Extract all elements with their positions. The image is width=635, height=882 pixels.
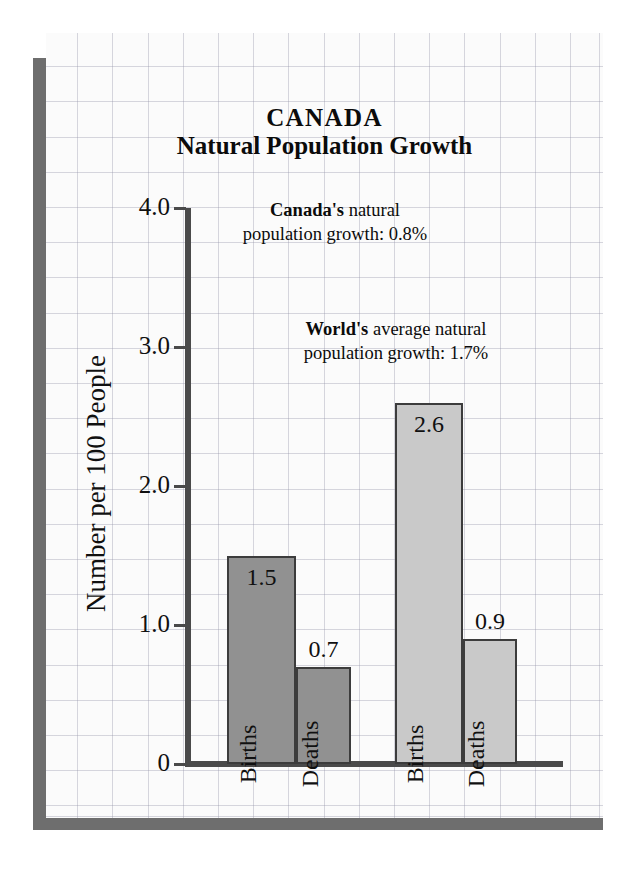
title-block: CANADA Natural Population Growth — [46, 105, 603, 161]
y-tick-label-4: 4.0 — [90, 194, 170, 219]
bar-value-label-1: 0.7 — [309, 636, 339, 663]
bar-world-deaths[interactable]: 0.9Deaths — [463, 639, 517, 764]
y-tick-label-1: 1.0 — [90, 611, 170, 636]
chart-figure: CANADA Natural Population Growth Canada'… — [0, 0, 635, 882]
y-tick-1 — [174, 624, 186, 627]
y-tick-0 — [174, 763, 186, 766]
bar-canada-births[interactable]: 1.5Births — [227, 556, 296, 765]
bar-category-label-0: Births — [235, 725, 262, 784]
bar-world-births[interactable]: 2.6Births — [395, 403, 463, 764]
annotation-world-lead: World's — [306, 319, 369, 339]
y-tick-2 — [174, 485, 186, 488]
annotation-canada-lead: Canada's — [270, 200, 344, 220]
bar-value-label-0: 1.5 — [247, 564, 277, 591]
y-tick-label-2: 2.0 — [90, 472, 170, 497]
annotation-world-rest: average natural — [368, 319, 486, 339]
annotation-canada: Canada's natural population growth: 0.8% — [185, 199, 485, 246]
bar-category-label-1: Deaths — [297, 721, 324, 788]
bar-value-label-2: 2.6 — [414, 411, 444, 438]
bar-value-label-3: 0.9 — [475, 608, 505, 635]
annotation-world: World's average natural population growt… — [231, 318, 561, 365]
y-tick-4 — [174, 207, 186, 210]
card-shadow-bottom — [33, 818, 603, 830]
chart-title: CANADA — [46, 105, 603, 131]
bar-canada-deaths[interactable]: 0.7Deaths — [296, 667, 351, 764]
annotation-world-line2: population growth: 1.7% — [231, 342, 561, 366]
card-shadow-left — [33, 58, 46, 830]
y-tick-label-3: 3.0 — [90, 333, 170, 358]
chart-card: CANADA Natural Population Growth Canada'… — [46, 33, 603, 818]
bar-category-label-3: Deaths — [463, 721, 490, 788]
annotation-canada-line2: population growth: 0.8% — [185, 223, 485, 247]
annotation-canada-line1: Canada's natural — [185, 199, 485, 223]
y-tick-3 — [174, 346, 186, 349]
annotation-world-line1: World's average natural — [231, 318, 561, 342]
bar-category-label-2: Births — [402, 725, 429, 784]
y-tick-label-0: 0 — [90, 750, 170, 775]
chart-subtitle: Natural Population Growth — [46, 132, 603, 161]
annotation-canada-rest: natural — [344, 200, 400, 220]
